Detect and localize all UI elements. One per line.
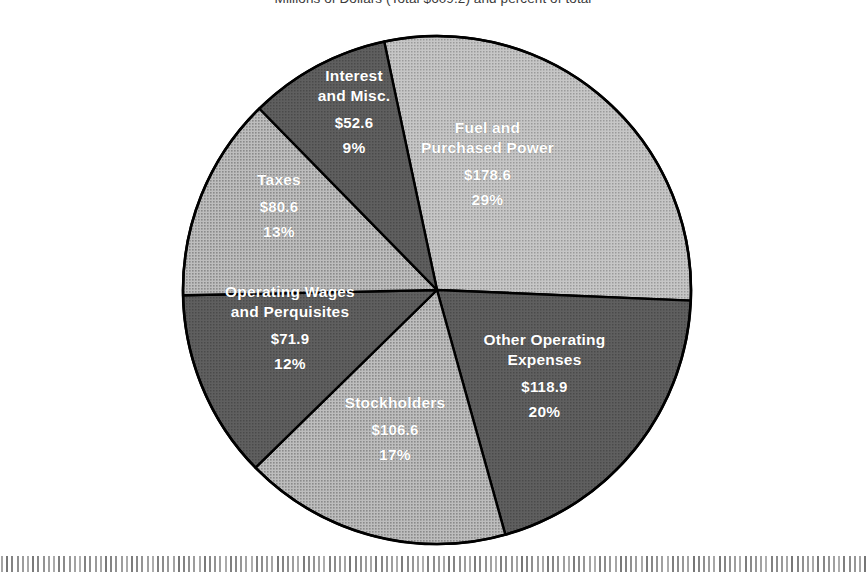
scanner-tick [230,556,232,572]
scanner-tick [719,556,721,572]
pie-slices [183,36,691,544]
scanner-tick [599,556,601,572]
scanner-tick [58,556,60,572]
scanner-tick [854,556,856,572]
scanner-tick [646,556,648,572]
scanner-tick [32,556,34,572]
scanner-tick [235,556,237,572]
scanner-tick [401,556,403,572]
scanner-tick [199,556,201,572]
scanner-tick [287,556,289,572]
scanner-tick [53,556,55,572]
scanner-tick [641,556,643,572]
scanner-tick [594,556,596,572]
scanner-tick [173,556,175,572]
scanner-tick [802,556,804,572]
scanner-tick [188,556,190,572]
scanner-tick [48,556,50,572]
scanner-tick [110,556,112,572]
scanner-tick [708,556,710,572]
scanner-tick [433,556,435,572]
scanner-tick [256,556,258,572]
scanner-tick [157,556,159,572]
scanner-tick [651,556,653,572]
scanner-tick [17,556,19,572]
scanner-tick [552,556,554,572]
scanner-tick [693,556,695,572]
scanner-tick [807,556,809,572]
scanner-tick [209,556,211,572]
scanner-tick [240,556,242,572]
scanner-tick [6,556,8,572]
scanner-tick [1,556,3,572]
scanner-tick [542,556,544,572]
scanner-tick [313,556,315,572]
scanner-tick [615,556,617,572]
scanner-tick [297,556,299,572]
scanner-tick [84,556,86,572]
scanner-tick [531,556,533,572]
scanner-tick [219,556,221,572]
scanner-tick [193,556,195,572]
scanner-tick [479,556,481,572]
scanner-tick [765,556,767,572]
scanner-tick [318,556,320,572]
scanner-tick [776,556,778,572]
scanner-tick [79,556,81,572]
scanner-tick [121,556,123,572]
scanner-tick [147,556,149,572]
scanner-tick [464,556,466,572]
scanner-tick [661,556,663,572]
scanner-tick [261,556,263,572]
scanner-tick [360,556,362,572]
scanner-tick [178,556,180,572]
scanner-tick [625,556,627,572]
scanner-tick [833,556,835,572]
scanner-tick [339,556,341,572]
scanner-tick [407,556,409,572]
scanner-tick [495,556,497,572]
scanner-tick [682,556,684,572]
scanner-tick [635,556,637,572]
scanner-tick [412,556,414,572]
scanner-tick [22,556,24,572]
scanner-tick [817,556,819,572]
scanner-tick [490,556,492,572]
scanner-tick [251,556,253,572]
scanner-tick [557,556,559,572]
scanner-tick [724,556,726,572]
scanner-tick [344,556,346,572]
scanner-tick [516,556,518,572]
scanner-tick [11,556,13,572]
scanner-tick [755,556,757,572]
scanner-tick [355,556,357,572]
scanner-tick [838,556,840,572]
scanner-tick [391,556,393,572]
scanner-tick [204,556,206,572]
scanner-tick [323,556,325,572]
scanner-tick [578,556,580,572]
scanner-tick [474,556,476,572]
scanner-tick [469,556,471,572]
scanner-tick [422,556,424,572]
scanner-tick [396,556,398,572]
scanner-tick [609,556,611,572]
scanner-tick [703,556,705,572]
scanner-tick [453,556,455,572]
scanner-tick [115,556,117,572]
scanner-tick [521,556,523,572]
scanner-tick [620,556,622,572]
scanner-tick [308,556,310,572]
scanner-tick [100,556,102,572]
scanner-tick [136,556,138,572]
scanner-tick [334,556,336,572]
scanner-tick [386,556,388,572]
scanner-tick [812,556,814,572]
scanner-tick [162,556,164,572]
scanner-tick [656,556,658,572]
scanner-tick [89,556,91,572]
scanner-tick [448,556,450,572]
scanner-tick [672,556,674,572]
scanner-tick [823,556,825,572]
scanner-tick [547,556,549,572]
